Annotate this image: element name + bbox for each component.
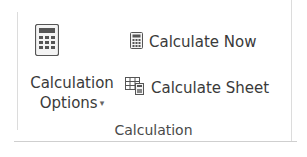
calculator-icon <box>35 24 59 60</box>
calculate-sheet-button[interactable]: Calculate Sheet <box>125 76 269 100</box>
calculation-options-button[interactable]: Calculation Options▾ <box>22 14 122 122</box>
calculate-sheet-label: Calculate Sheet <box>151 79 269 97</box>
calculate-now-button[interactable]: Calculate Now <box>130 30 257 54</box>
calculator-icon <box>130 32 149 53</box>
calculation-options-label-line1: Calculation <box>10 73 134 93</box>
dropdown-caret-icon: ▾ <box>100 98 105 108</box>
sheet-calculator-icon <box>125 77 151 99</box>
ribbon-bottom-border <box>14 141 297 142</box>
calculation-options-label-line2: Options <box>40 94 98 112</box>
right-separator <box>291 0 292 142</box>
calculate-now-label: Calculate Now <box>149 33 257 51</box>
group-label: Calculation <box>0 122 307 138</box>
